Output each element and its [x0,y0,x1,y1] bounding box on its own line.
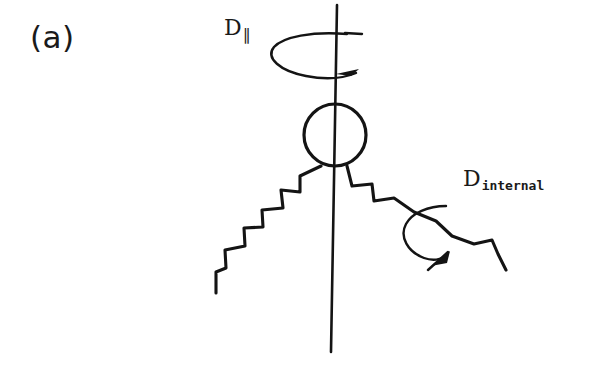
d-parallel-base: D [224,15,242,40]
d-internal-base: D [463,166,481,191]
d-parallel-label: D∥ [224,17,250,43]
d-parallel-subscript: ∥ [243,25,250,44]
figure-panel-a: (a) D∥ Dinternal [0,0,596,373]
axial-rotation-ellipse-far-dash [345,33,362,34]
d-internal-subscript: internal [482,178,545,193]
left-chain-zigzag [216,166,321,293]
d-internal-label: Dinternal [463,168,544,192]
axial-rotation-ellipse-near [271,33,356,78]
internal-rotation-curve [404,206,447,260]
panel-label: (a) [30,22,75,53]
rotation-axis-line [331,5,337,352]
